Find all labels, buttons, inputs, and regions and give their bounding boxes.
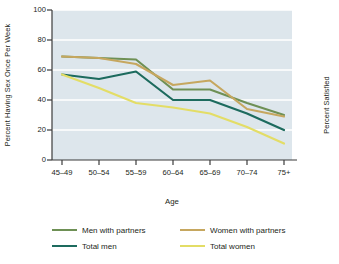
x-axis-ticks: [62, 160, 284, 165]
y-tick-label: 100: [18, 5, 46, 14]
legend-label: Men with partners: [82, 226, 146, 235]
x-axis-title: Age: [122, 197, 222, 206]
y-tick-label: 80: [18, 35, 46, 44]
chart-figure: 100806040200 45–4950–5455–5960–6465–6970…: [0, 0, 339, 264]
legend-item[interactable]: Men with partners: [52, 226, 180, 235]
y-axis-ticks: [47, 10, 52, 160]
y-tick-label: 40: [18, 95, 46, 104]
y-tick-label: 20: [18, 125, 46, 134]
legend-swatch: [52, 245, 77, 247]
legend-label: Total women: [210, 242, 255, 251]
legend-item[interactable]: Women with partners: [180, 226, 327, 235]
y-tick-label: 60: [18, 65, 46, 74]
legend-item[interactable]: Total women: [180, 242, 327, 251]
y-tick-label: 0: [18, 155, 46, 164]
chart-legend: Men with partnersWomen with partnersTota…: [52, 222, 327, 254]
y-axis-title-left: Percent Having Sex Once Per Week: [3, 10, 12, 160]
legend-item[interactable]: Total men: [52, 242, 180, 251]
legend-swatch: [52, 229, 77, 231]
legend-label: Women with partners: [210, 226, 285, 235]
legend-label: Total men: [82, 242, 117, 251]
legend-swatch: [180, 229, 205, 231]
y-axis-title-right: Percent Satisfied: [322, 40, 331, 170]
x-tick-label: 75+: [262, 168, 306, 177]
legend-swatch: [180, 245, 205, 247]
